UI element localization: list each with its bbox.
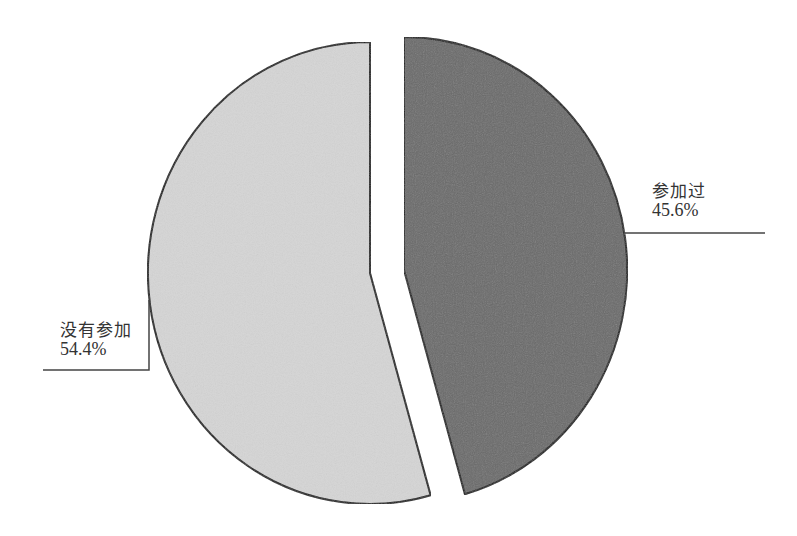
label-not-participated-percent: 54.4%	[60, 340, 132, 359]
label-participated-percent: 45.6%	[652, 201, 706, 220]
slice-not-participated[interactable]	[148, 42, 431, 504]
label-participated-name: 参加过	[652, 182, 706, 201]
label-not-participated-name: 没有参加	[60, 321, 132, 340]
pie-chart	[0, 0, 797, 536]
slice-participated[interactable]	[404, 37, 627, 494]
label-participated: 参加过 45.6%	[652, 182, 706, 220]
label-not-participated: 没有参加 54.4%	[60, 321, 132, 359]
